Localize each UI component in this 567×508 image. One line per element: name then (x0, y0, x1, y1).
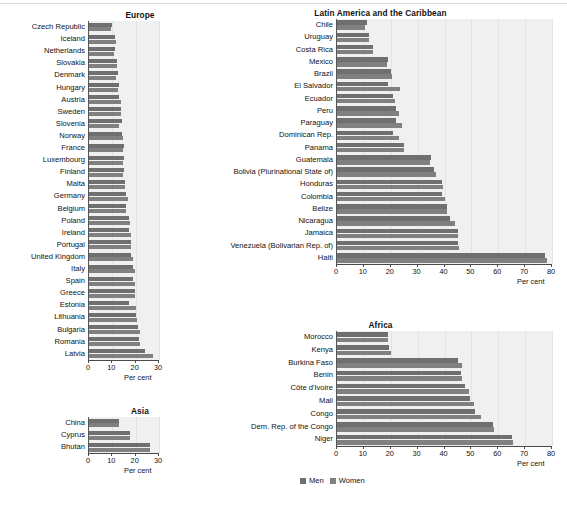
gridline (364, 19, 365, 264)
plot-africa: MoroccoKenyaBurkina FasoBeninCôte d'Ivoi… (196, 331, 565, 460)
axis-tick-label: 80 (547, 267, 555, 276)
axis-tick-label: 10 (359, 449, 367, 458)
category-label: Mexico (309, 56, 333, 68)
bar-men (89, 59, 117, 63)
category-label: Spain (66, 275, 85, 287)
axis-tick-label: 40 (439, 449, 447, 458)
bar-women (89, 40, 116, 44)
bar-women (337, 185, 443, 189)
category-label: Chile (316, 19, 333, 31)
bar-men (337, 167, 434, 171)
bar-women (337, 62, 387, 66)
chart-panel-africa: Africa MoroccoKenyaBurkina FasoBeninCôte… (196, 320, 565, 460)
axis-tick-label: 80 (547, 449, 555, 458)
bar-women (337, 123, 402, 127)
category-label: Colombia (301, 191, 333, 203)
bar-women (337, 209, 447, 213)
bar-men (337, 332, 388, 337)
bar-men (89, 83, 119, 87)
bar-women (337, 402, 474, 407)
bar-women (337, 221, 455, 225)
category-labels-asia: ChinaCyprusBhutan (2, 417, 88, 453)
bar-women (337, 38, 369, 42)
bar-men (337, 45, 373, 49)
bar-women (337, 363, 462, 368)
bar-men (89, 337, 139, 341)
bar-men (337, 253, 545, 257)
category-label: Costa Rica (296, 44, 333, 56)
bar-women (337, 50, 373, 54)
bar-women (89, 330, 140, 334)
bar-men (89, 156, 124, 160)
bar-men (337, 384, 465, 389)
category-label: Côte d'Ivoire (291, 382, 333, 395)
gridline (445, 19, 446, 264)
category-labels-latin-america: ChileUruguayCosta RicaMexicoBrazilEl Sal… (196, 19, 336, 264)
category-label: Hungary (56, 82, 85, 94)
bar-men (337, 345, 389, 350)
category-label: Niger (315, 433, 333, 446)
chart-title-latin-america: Latin America and the Caribbean (196, 8, 565, 19)
category-label: Luxembourg (43, 154, 85, 166)
bar-women (337, 25, 365, 29)
gridline (525, 331, 526, 446)
bar-men (89, 431, 130, 435)
bar-men (337, 192, 442, 196)
bar-women (89, 136, 123, 140)
gridline (525, 19, 526, 264)
gridline (471, 19, 472, 264)
bar-women (337, 258, 547, 262)
category-label: Italy (71, 263, 85, 275)
bar-women (89, 294, 135, 298)
axis-tick-label: 0 (334, 449, 338, 458)
bar-men (337, 118, 396, 122)
bar-women (89, 76, 116, 80)
category-label: Bulgaria (57, 324, 85, 336)
axis-caption-africa: Per cent (517, 459, 545, 468)
bar-women (89, 448, 150, 452)
legend-label-women: Women (339, 476, 365, 485)
bar-men (337, 422, 493, 427)
bar-men (337, 143, 404, 147)
category-label: Romania (55, 336, 85, 348)
bar-women (89, 233, 131, 237)
bar-men (89, 443, 150, 447)
category-label: Greece (60, 287, 85, 299)
plot-latin-america: ChileUruguayCosta RicaMexicoBrazilEl Sal… (196, 19, 565, 278)
bar-women (337, 440, 513, 445)
category-label: Denmark (54, 69, 85, 81)
chart-panel-latin-america: Latin America and the Caribbean ChileUru… (196, 8, 565, 278)
axis-tick-label: 70 (520, 267, 528, 276)
bar-men (89, 277, 133, 281)
bar-women (337, 427, 494, 432)
bar-men (337, 241, 458, 245)
bar-women (337, 376, 462, 381)
category-label: Honduras (300, 178, 333, 190)
bar-women (337, 197, 445, 201)
gridline (159, 417, 160, 453)
category-label: Norway (59, 130, 85, 142)
category-label: Ireland (62, 227, 85, 239)
category-label: Germany (54, 190, 85, 202)
bar-men (337, 106, 396, 110)
axis-tick-label: 70 (520, 449, 528, 458)
bar-men (337, 409, 475, 414)
category-label: Latvia (65, 348, 85, 360)
bar-men (89, 107, 121, 111)
category-label: Brazil (314, 68, 333, 80)
bar-women (89, 112, 121, 116)
axis-tick-label: 10 (359, 267, 367, 276)
bar-women (89, 197, 128, 201)
bar-men (337, 20, 367, 24)
category-label: Mali (319, 395, 333, 408)
bar-men (89, 289, 135, 293)
category-label: Iceland (61, 33, 86, 45)
axis-tick-label: 20 (131, 456, 139, 465)
bar-women (337, 351, 391, 356)
category-label: Nicaragua (298, 215, 333, 227)
bar-women (337, 74, 392, 78)
bar-women (89, 173, 123, 177)
bar-women (89, 306, 136, 310)
category-label: Malta (66, 178, 85, 190)
axis-tick-label: 40 (439, 267, 447, 276)
